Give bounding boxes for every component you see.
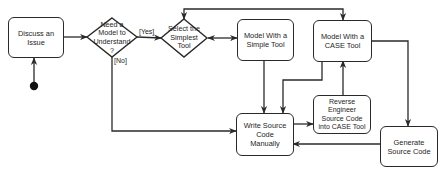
initial-node: [30, 82, 38, 90]
action-generate-source-code-label: Generate Source Code: [387, 138, 431, 156]
action-model-case-tool: Model With a CASE Tool: [313, 20, 372, 62]
action-generate-source-code: Generate Source Code: [380, 126, 438, 167]
decision-need-model-shape: [87, 18, 137, 57]
action-write-source-code-label: Write Source Code Manually: [241, 121, 289, 148]
edge-no-to-write-code: [112, 57, 236, 131]
connector-layer: [0, 0, 440, 170]
action-discuss-issue-label: Discuss an Issue: [16, 29, 56, 47]
action-model-case-tool-label: Model With a CASE Tool: [319, 32, 367, 50]
guard-no: [No]: [114, 57, 127, 64]
action-write-source-code: Write Source Code Manually: [236, 113, 294, 156]
action-discuss-issue: Discuss an Issue: [8, 17, 64, 58]
action-reverse-engineer: Reverse Engineer Source Code into CASE T…: [313, 95, 371, 134]
action-reverse-engineer-label: Reverse Engineer Source Code into CASE T…: [316, 98, 368, 132]
edge-case-tool-to-generate: [371, 41, 408, 126]
action-model-simple-tool: Model With a Simple Tool: [237, 19, 294, 61]
guard-yes: [Yes]: [139, 28, 154, 35]
edge-yes-to-select: [137, 37, 161, 38]
activity-diagram: Discuss an Issue Model With a Simple Too…: [0, 0, 440, 170]
action-model-simple-tool-label: Model With a Simple Tool: [242, 31, 290, 49]
decision-select-tool-shape: [161, 19, 207, 57]
